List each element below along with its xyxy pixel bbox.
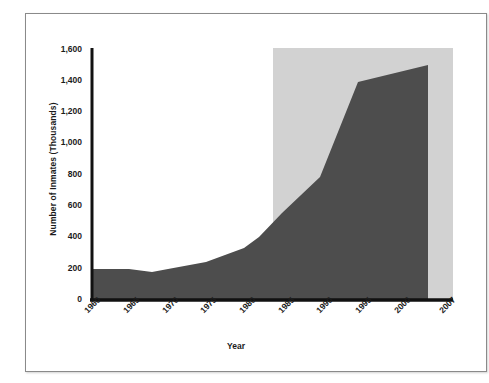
inmates-area-series [91,65,428,299]
x-axis-title: Year [26,341,446,351]
chart-canvas [26,14,488,373]
plot-surface: 1,600 1,400 1,200 1,000 800 600 400 200 … [26,14,488,373]
chart-figure-frame: 1,600 1,400 1,200 1,000 800 600 400 200 … [25,13,487,372]
screenshot-root: 1,600 1,400 1,200 1,000 800 600 400 200 … [0,0,489,383]
